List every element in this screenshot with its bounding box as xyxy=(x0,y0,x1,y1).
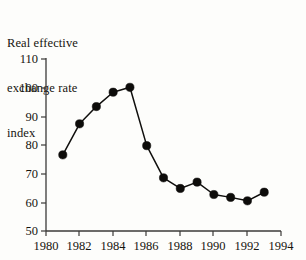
x-tick-label-1992: 1992 xyxy=(235,239,260,253)
x-axis-tick-labels: 1980 1982 1984 1986 1988 1990 1992 1994 xyxy=(34,239,295,253)
x-tick-label-1988: 1988 xyxy=(168,239,193,253)
y-tick-label-50: 50 xyxy=(26,224,39,238)
data-point-1985 xyxy=(126,83,134,91)
data-point-1992 xyxy=(243,197,251,205)
x-axis-ticks xyxy=(46,231,281,236)
data-point-1984 xyxy=(109,88,117,96)
x-tick-label-1982: 1982 xyxy=(67,239,92,253)
y-tick-label-60: 60 xyxy=(26,196,39,210)
data-point-1982 xyxy=(75,120,83,128)
data-point-1993 xyxy=(260,188,268,196)
y-tick-label-70: 70 xyxy=(26,167,39,181)
data-point-1983 xyxy=(92,102,100,110)
data-point-1990 xyxy=(210,190,218,198)
data-series-markers xyxy=(59,83,269,205)
data-point-1986 xyxy=(143,142,151,150)
y-tick-label-110: 110 xyxy=(20,52,38,66)
x-tick-label-1986: 1986 xyxy=(134,239,159,253)
line-chart-plot: 110 100 90 80 70 60 50 1980 1982 1984 19… xyxy=(0,0,306,260)
data-point-1991 xyxy=(227,193,235,201)
x-tick-label-1994: 1994 xyxy=(269,239,295,253)
x-tick-label-1980: 1980 xyxy=(34,239,59,253)
y-axis-tick-labels: 110 100 90 80 70 60 50 xyxy=(19,52,38,238)
y-tick-label-80: 80 xyxy=(26,138,39,152)
data-point-1989 xyxy=(193,178,201,186)
y-tick-label-100: 100 xyxy=(19,81,38,95)
data-point-1988 xyxy=(176,184,184,192)
chart-figure: Real effective exchange rate index 110 1… xyxy=(0,0,306,260)
y-tick-label-90: 90 xyxy=(26,110,39,124)
x-tick-label-1990: 1990 xyxy=(201,239,226,253)
x-tick-label-1984: 1984 xyxy=(101,239,127,253)
y-axis-ticks xyxy=(41,59,46,231)
data-point-1981 xyxy=(59,151,67,159)
data-point-1987 xyxy=(159,174,167,182)
